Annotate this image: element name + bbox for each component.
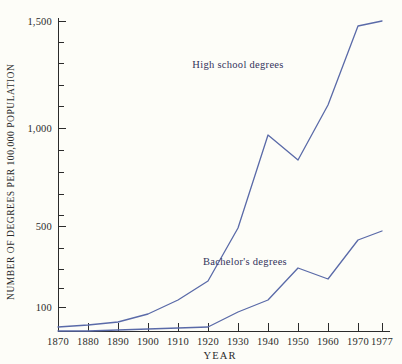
annotation-high-school-degrees: High school degrees <box>192 59 283 70</box>
x-axis-title: YEAR <box>204 350 237 361</box>
x-tick-label: 1970 <box>347 336 369 347</box>
x-tick-label: 1900 <box>137 336 159 347</box>
annotation-bachelors-degrees: Bachelor's degrees <box>203 256 287 267</box>
x-tick-label: 1950 <box>287 336 309 347</box>
y-tick-label: 1,000 <box>27 123 52 134</box>
y-axis-ticks: 1,5001,000500100 <box>27 16 66 313</box>
y-axis-title: NUMBER OF DEGREES PER 100,000 POPULATION <box>6 64 16 300</box>
x-tick-label: 1977 <box>371 336 393 347</box>
x-axis-ticks: 1870188018901900191019201930194019501960… <box>47 323 393 347</box>
x-tick-label: 1880 <box>77 336 99 347</box>
x-tick-label: 1960 <box>317 336 339 347</box>
y-axis-minor-ticks <box>58 42 64 288</box>
y-tick-label: 500 <box>36 221 52 232</box>
x-tick-label: 1870 <box>47 336 69 347</box>
y-tick-label: 1,500 <box>27 16 52 27</box>
x-tick-label: 1930 <box>227 336 249 347</box>
x-tick-label: 1910 <box>167 336 189 347</box>
line-chart: NUMBER OF DEGREES PER 100,000 POPULATION… <box>0 0 402 364</box>
series-line-bachelors-degrees <box>58 231 382 331</box>
x-tick-label: 1890 <box>107 336 129 347</box>
x-tick-label: 1940 <box>257 336 279 347</box>
chart-container: NUMBER OF DEGREES PER 100,000 POPULATION… <box>0 0 402 364</box>
y-tick-label: 100 <box>36 302 52 313</box>
x-tick-label: 1920 <box>197 336 219 347</box>
